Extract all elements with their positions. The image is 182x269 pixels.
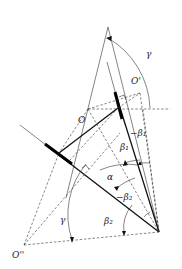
label-neg-beta1: −β₁ xyxy=(130,128,146,138)
dashed-Odouble-to-joint xyxy=(24,153,59,245)
label-beta2: β₂ xyxy=(103,216,113,226)
dashed-Odouble-to-apex xyxy=(24,232,159,245)
label-beta1: β₁ xyxy=(119,142,129,152)
dashed-Oprime-to-apex xyxy=(140,93,159,232)
arc-gamma-top xyxy=(108,38,150,108)
thick-segment-left xyxy=(45,144,72,164)
label-gamma-bottom: γ xyxy=(60,215,66,225)
label-alpha: α xyxy=(107,172,113,182)
arrowhead-gamma-top xyxy=(106,36,112,41)
arc-alpha xyxy=(100,164,138,170)
dashed-O-to-apex xyxy=(88,109,159,232)
label-O-double-prime: O'' xyxy=(12,250,24,260)
arrowhead-neg-beta2 xyxy=(114,186,119,191)
dashed-O-to-Oprime xyxy=(88,93,140,109)
line-upper-extension xyxy=(107,62,116,95)
label-O-prime: O' xyxy=(131,76,141,86)
line-outer-left xyxy=(66,27,108,198)
dashed-joint-to-Oprime xyxy=(118,93,140,108)
line-diagonal-extension xyxy=(20,125,46,145)
diagram-canvas: γ O' O −β₁ β₁ α −β₂ γ β₂ O'' xyxy=(0,0,182,269)
arrowhead-beta1 xyxy=(123,160,128,166)
label-neg-beta2: −β₂ xyxy=(116,192,133,202)
label-O: O xyxy=(78,115,86,125)
label-gamma-top: γ xyxy=(146,49,152,59)
arc-beta2 xyxy=(124,205,132,233)
arc-neg-beta2 xyxy=(116,178,135,189)
right-angle-mark-bottom xyxy=(82,165,89,169)
coupler-link xyxy=(59,108,118,153)
